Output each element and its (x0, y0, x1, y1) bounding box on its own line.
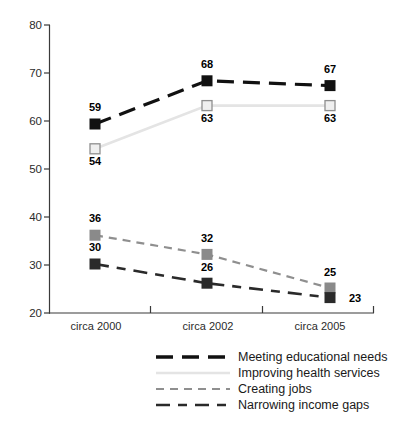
legend-label-meeting-educational-needs: Meeting educational needs (238, 350, 387, 364)
xtick-label-circa-2005: circa 2005 (275, 320, 365, 332)
ytick-label-50: 50 (18, 163, 42, 175)
data-label-health-2000: 54 (80, 155, 110, 167)
ytick-label-80: 80 (18, 19, 42, 31)
ytick-label-70: 70 (18, 67, 42, 79)
series-improving-health-services (90, 101, 335, 154)
data-label-health-2005: 63 (315, 112, 345, 124)
legend-swatch-thick-black-long-dash-line (156, 350, 230, 364)
legend-label-narrowing-income-gaps: Narrowing income gaps (238, 398, 369, 412)
legend-label-improving-health-services: Improving health services (238, 366, 380, 380)
legend-swatch-light-gray-solid-line (156, 366, 230, 380)
data-label-jobs-2000: 36 (80, 212, 110, 224)
data-label-jobs-2005: 25 (315, 266, 345, 278)
legend-swatch-black-mixed-dash-line (156, 398, 230, 412)
legend-label-creating-jobs: Creating jobs (238, 382, 312, 396)
line-chart: 80 70 60 50 40 30 20 circa 2000 circa 20… (0, 0, 407, 431)
legend-item-meeting-educational-needs[interactable]: Meeting educational needs (156, 349, 407, 365)
legend-swatch-gray-dashed-line (156, 382, 230, 396)
ytick-label-40: 40 (18, 211, 42, 223)
data-label-jobs-2002: 32 (192, 232, 222, 244)
data-label-income-2005: 23 (340, 292, 370, 304)
data-label-income-2000: 30 (80, 241, 110, 253)
chart-legend: Meeting educational needs Improving heal… (156, 349, 407, 413)
legend-item-narrowing-income-gaps[interactable]: Narrowing income gaps (156, 397, 407, 413)
xtick-label-circa-2002: circa 2002 (163, 320, 253, 332)
xtick-label-circa-2000: circa 2000 (51, 320, 141, 332)
data-label-health-2002: 63 (192, 112, 222, 124)
data-label-education-2000: 59 (80, 101, 110, 113)
data-label-education-2005: 67 (315, 63, 345, 75)
data-label-education-2002: 68 (192, 58, 222, 70)
legend-item-creating-jobs[interactable]: Creating jobs (156, 381, 407, 397)
ytick-label-30: 30 (18, 259, 42, 271)
legend-item-improving-health-services[interactable]: Improving health services (156, 365, 407, 381)
data-label-income-2002: 26 (192, 261, 222, 273)
ytick-label-60: 60 (18, 115, 42, 127)
x-axis-ticks (151, 306, 374, 313)
ytick-label-20: 20 (18, 307, 42, 319)
